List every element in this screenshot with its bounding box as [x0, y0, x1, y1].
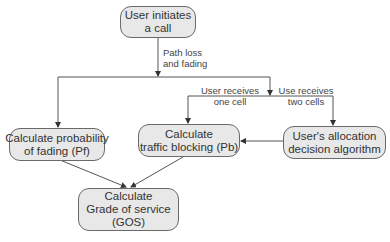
- connector-lines: [0, 0, 390, 242]
- edge-label-one-cell: User receives one cell: [195, 85, 265, 107]
- node-text: Calculate probability: [5, 132, 109, 145]
- node-text: Calculate: [165, 128, 213, 141]
- node-text: User initiates: [125, 9, 191, 22]
- node-text: a call: [145, 22, 172, 35]
- edge-label-path-loss: Path loss and fading: [163, 47, 207, 69]
- node-traffic-blocking: Calculate traffic blocking (Pb): [138, 124, 240, 157]
- node-text: of fading (Pf): [24, 145, 90, 158]
- node-allocation-decision-algorithm: User's allocation decision algorithm: [283, 126, 386, 159]
- node-text: User's allocation: [292, 130, 376, 143]
- node-text: (GOS): [112, 216, 145, 229]
- node-user-initiates-call: User initiates a call: [120, 6, 196, 38]
- node-text: decision algorithm: [288, 143, 381, 156]
- node-text: Calculate: [105, 190, 153, 203]
- node-text: traffic blocking (Pb): [140, 141, 238, 154]
- node-grade-of-service: Calculate Grade of service (GOS): [78, 188, 179, 231]
- edge-label-two-cells: Use receives two cells: [276, 85, 336, 107]
- node-probability-of-fading: Calculate probability of fading (Pf): [9, 128, 105, 161]
- node-text: Grade of service: [86, 203, 170, 216]
